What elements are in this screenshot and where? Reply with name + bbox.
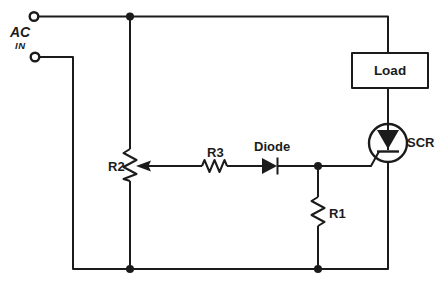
junction-dot: [126, 265, 134, 273]
junction-dot: [126, 13, 134, 21]
ac-terminal-bottom: [31, 53, 40, 62]
diode-label: Diode: [254, 139, 290, 154]
junction-dot: [314, 265, 322, 273]
wire-gate: [278, 152, 380, 167]
in-label: IN: [15, 40, 26, 51]
load-label: Load: [374, 63, 406, 78]
scr-triangle: [377, 130, 399, 149]
r1-label: R1: [329, 206, 346, 221]
diode-symbol: [262, 158, 277, 174]
ac-terminal-top: [30, 12, 39, 21]
circuit-diagram: AC IN Load SCR R2 R3 Diode R1: [0, 0, 438, 282]
r3-resistor: [202, 160, 227, 172]
scr-label: SCR: [407, 135, 435, 150]
ac-label: AC: [9, 24, 31, 40]
junction-dot: [314, 162, 322, 170]
wire-top: [39, 17, 389, 54]
r1-resistor: [312, 197, 325, 226]
r3-label: R3: [207, 145, 224, 160]
r2-label: R2: [108, 159, 125, 174]
r2-potentiometer: [124, 149, 137, 181]
